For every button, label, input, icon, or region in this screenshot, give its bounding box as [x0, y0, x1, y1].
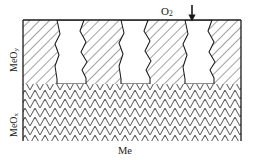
o2-label-subscript: 2: [169, 9, 173, 18]
outer-oxide-label-subscript: y: [12, 48, 20, 52]
void-group: [55, 20, 215, 84]
inner-oxide-layer-label: MeOx: [9, 113, 20, 137]
metal-substrate-label: Me: [118, 146, 132, 157]
outer-oxide-label-text: MeO: [8, 51, 19, 72]
outer-oxide-layer-label: MeOy: [9, 48, 20, 72]
o2-label-text: O: [161, 5, 169, 17]
arrow-down-icon: [188, 5, 195, 22]
outer-oxide-layer: [23, 20, 241, 84]
inner-oxide-label-text: MeO: [8, 116, 19, 137]
oxidation-schematic-figure: O2 MeOy MeOx Me: [0, 0, 265, 163]
figure-svg: [0, 0, 265, 163]
inner-oxide-layer: [23, 84, 241, 141]
inner-oxide-label-subscript: x: [12, 113, 20, 117]
o2-gas-label: O2: [161, 6, 173, 18]
